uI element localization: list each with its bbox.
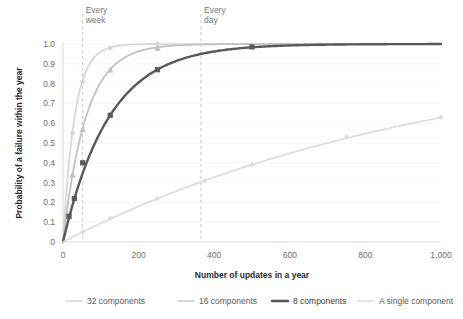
data-point-marker xyxy=(80,229,86,235)
y-tick-label: 0.4 xyxy=(43,158,55,168)
data-point-marker xyxy=(108,113,113,118)
annotation-vertical-lines xyxy=(83,14,201,242)
annotation-label-1: week xyxy=(85,15,107,25)
y-tick-label: 0.1 xyxy=(43,217,55,227)
x-tick-label: 200 xyxy=(132,250,146,260)
data-point-marker xyxy=(66,214,71,219)
data-point-marker xyxy=(80,160,85,165)
legend-label-3[interactable]: A single component xyxy=(379,296,454,306)
x-tick-label: 800 xyxy=(358,250,372,260)
legend-label-0[interactable]: 32 components xyxy=(87,296,145,306)
y-tick-label: 0.5 xyxy=(43,138,55,148)
data-point-marker xyxy=(155,196,161,202)
y-axis-tick-labels: 00.10.20.30.40.50.60.70.80.91.0 xyxy=(43,39,55,247)
data-point-marker xyxy=(155,67,160,72)
y-axis-title: Probability of a failure within the year xyxy=(14,67,24,219)
data-point-marker xyxy=(79,126,85,132)
annotation-label-1: Every xyxy=(86,5,108,15)
data-point-marker xyxy=(249,44,254,49)
x-axis-title: Number of updates in a year xyxy=(195,270,310,280)
data-point-marker xyxy=(70,130,76,136)
y-tick-label: 0.3 xyxy=(43,178,55,188)
legend-label-1[interactable]: 16 components xyxy=(199,296,257,306)
x-axis-tick-labels: 02004006008001,000 xyxy=(61,250,452,260)
legend-label-2[interactable]: 8 components xyxy=(293,296,346,306)
x-tick-label: 1,000 xyxy=(430,250,452,260)
data-point-marker xyxy=(72,196,77,201)
x-tick-label: 0 xyxy=(61,250,66,260)
chart-legend: 32 components16 components8 componentsA … xyxy=(66,296,454,306)
annotation-label-2: Every xyxy=(204,5,226,15)
x-tick-label: 400 xyxy=(207,250,221,260)
y-tick-label: 0.6 xyxy=(43,118,55,128)
y-tick-label: 1.0 xyxy=(43,39,55,49)
chart-container: 02004006008001,000 00.10.20.30.40.50.60.… xyxy=(0,0,463,319)
x-tick-label: 600 xyxy=(283,250,297,260)
data-point-marker xyxy=(107,45,113,51)
data-point-marker xyxy=(438,114,444,120)
failure-probability-line-chart: 02004006008001,000 00.10.20.30.40.50.60.… xyxy=(0,0,463,319)
y-tick-label: 0.2 xyxy=(43,197,55,207)
series-line-3 xyxy=(63,118,441,242)
annotation-label-2: day xyxy=(204,15,218,25)
data-point-marker xyxy=(69,171,75,177)
y-tick-label: 0.8 xyxy=(43,79,55,89)
markers-layer xyxy=(66,41,443,235)
gridlines xyxy=(63,44,441,222)
y-tick-label: 0 xyxy=(50,237,55,247)
axis-lines xyxy=(63,42,441,242)
y-tick-label: 0.7 xyxy=(43,98,55,108)
annotation-labels: EveryweekEveryday xyxy=(85,5,227,25)
y-tick-label: 0.9 xyxy=(43,59,55,69)
